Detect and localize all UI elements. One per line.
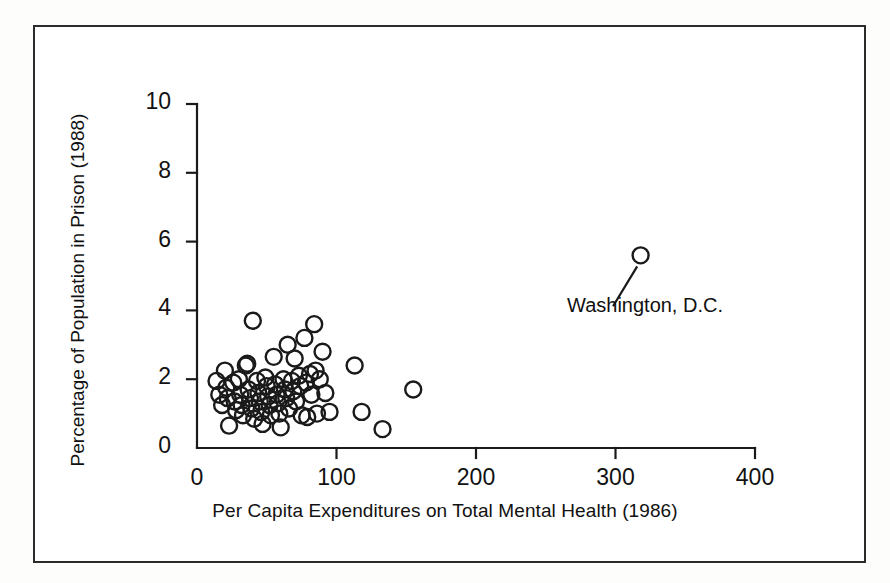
x-axis-title: Per Capita Expenditures on Total Mental …: [0, 500, 890, 522]
axes: [187, 104, 755, 458]
y-tick-label: 0: [131, 432, 171, 459]
data-point: [375, 421, 391, 437]
y-tick-label: 4: [131, 294, 171, 321]
data-point: [405, 382, 421, 398]
y-tick-label: 2: [131, 363, 171, 390]
data-point: [266, 349, 282, 365]
y-tick-label: 6: [131, 226, 171, 253]
x-tick-label: 100: [302, 464, 372, 491]
data-point: [633, 247, 649, 263]
data-point: [347, 357, 363, 373]
x-tick-label: 200: [441, 464, 511, 491]
data-point: [287, 351, 303, 367]
data-point: [315, 344, 331, 360]
data-markers: [209, 247, 649, 437]
data-point: [354, 404, 370, 420]
y-tick-label: 10: [131, 88, 171, 115]
data-point: [221, 418, 237, 434]
x-tick-label: 300: [581, 464, 651, 491]
figure-container: 02468100100200300400 Washington, D.C. Pe…: [0, 0, 890, 583]
data-point: [306, 316, 322, 332]
data-point: [299, 409, 315, 425]
data-point: [245, 313, 261, 329]
annotation-washington-dc: Washington, D.C.: [567, 294, 723, 317]
x-tick-label: 0: [162, 464, 232, 491]
y-tick-label: 8: [131, 157, 171, 184]
x-tick-label: 400: [720, 464, 790, 491]
